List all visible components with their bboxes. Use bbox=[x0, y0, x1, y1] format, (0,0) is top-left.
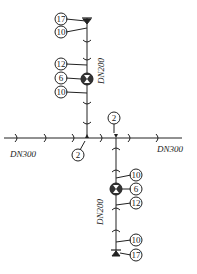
lower-branch-size-label: DN200 bbox=[95, 198, 105, 226]
main-line-size-label-right: DN300 bbox=[156, 144, 184, 154]
callout-6-lower: 6 bbox=[134, 184, 139, 194]
upper-branch-size-label: DN200 bbox=[96, 57, 106, 85]
callout-circles-upper bbox=[55, 13, 67, 98]
callout-12-upper: 12 bbox=[57, 59, 66, 69]
piping-diagram: 17 10 12 6 10 10 6 12 10 17 2 2 DN300 DN… bbox=[0, 0, 197, 274]
callout-2-upper: 2 bbox=[112, 113, 117, 123]
callout-2-lower: 2 bbox=[76, 150, 81, 160]
gate-valve-icon-lower bbox=[110, 183, 122, 195]
end-valve-icon-bottom bbox=[111, 250, 121, 256]
callout-10-lower-b: 10 bbox=[132, 235, 142, 245]
gate-valve-icon-upper bbox=[81, 73, 93, 85]
callout-12-lower: 12 bbox=[132, 198, 141, 208]
callout-6-upper: 6 bbox=[59, 73, 64, 83]
tee-marker-upper-icon bbox=[114, 134, 118, 138]
callout-10-upper-a: 10 bbox=[57, 27, 67, 37]
tee-leader-lower bbox=[80, 141, 85, 150]
callout-17-upper: 17 bbox=[57, 14, 67, 24]
main-line-size-label-left: DN300 bbox=[9, 149, 37, 159]
callout-17-lower: 17 bbox=[132, 250, 142, 260]
tee-marker-lower-icon bbox=[85, 134, 89, 138]
callout-10-lower-a: 10 bbox=[132, 170, 142, 180]
callout-10-upper-b: 10 bbox=[57, 87, 67, 97]
callout-circles-lower bbox=[130, 169, 142, 261]
